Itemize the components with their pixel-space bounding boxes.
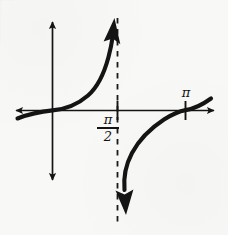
- pi-over-2-denominator: 2: [96, 130, 120, 143]
- tan-curve-right-branch: [124, 99, 211, 191]
- tan-curve-left-branch: [18, 37, 113, 119]
- tangent-graph-figure: π 2 π: [0, 0, 228, 235]
- x-tick-label-pi: π: [178, 86, 194, 99]
- x-tick-label-pi-over-2: π 2: [96, 113, 120, 143]
- tan-curve-down-arrowhead: [116, 189, 134, 215]
- pi-over-2-numerator: π: [96, 113, 120, 127]
